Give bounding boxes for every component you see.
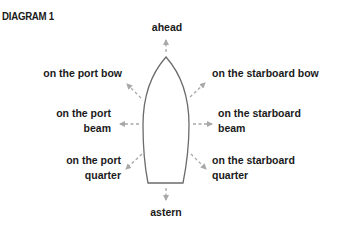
arrow-starboard-quarter-icon <box>191 154 206 169</box>
label-starboard-quarter-line2: quarter <box>212 168 295 183</box>
label-port-quarter-line2: quarter <box>66 168 121 183</box>
arrow-starboard-bow-icon <box>190 83 205 97</box>
label-port-beam-line1: on the port <box>56 106 111 121</box>
label-port-quarter: on the port quarter <box>66 153 121 183</box>
label-port-beam: on the port beam <box>56 106 111 136</box>
label-astern: astern <box>144 205 188 220</box>
label-port-bow: on the port bow <box>43 66 122 81</box>
label-starboard-beam-line1: on the starboard <box>218 106 301 121</box>
label-ahead: ahead <box>146 20 188 35</box>
label-starboard-quarter: on the starboard quarter <box>212 153 295 183</box>
label-starboard-quarter-line1: on the starboard <box>212 153 295 168</box>
label-port-beam-line2: beam <box>56 121 111 136</box>
arrow-port-quarter-icon <box>126 154 142 169</box>
label-starboard-beam: on the starboard beam <box>218 106 301 136</box>
arrow-port-bow-icon <box>127 84 141 98</box>
label-starboard-beam-line2: beam <box>218 121 301 136</box>
label-starboard-bow: on the starboard bow <box>212 66 319 81</box>
label-port-quarter-line1: on the port <box>66 153 121 168</box>
boat-hull-icon <box>143 57 189 183</box>
